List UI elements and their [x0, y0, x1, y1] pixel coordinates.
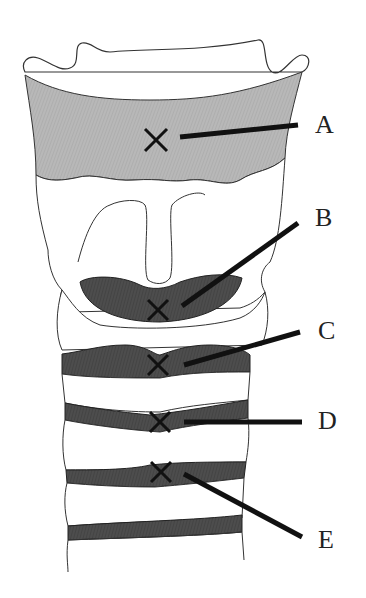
label-C: C: [318, 318, 335, 344]
label-E: E: [318, 527, 334, 553]
larynx-trachea-diagram: [0, 0, 366, 598]
label-B: B: [315, 205, 332, 231]
hyoid-bone: [23, 40, 308, 73]
label-A: A: [315, 112, 334, 138]
label-D: D: [318, 408, 337, 434]
